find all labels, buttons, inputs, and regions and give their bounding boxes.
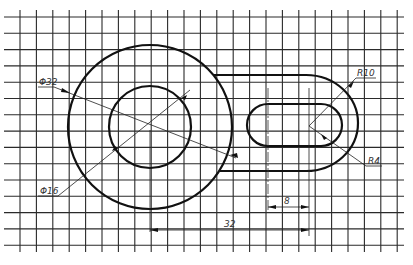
r10-label: R10 bbox=[357, 68, 375, 78]
phi32-label: Φ32 bbox=[39, 77, 58, 87]
dim-32-label: 32 bbox=[224, 219, 236, 229]
dim-8-arrow-left bbox=[268, 205, 276, 209]
technical-drawing: Φ32 Φ16 R10 R4 8 32 bbox=[0, 0, 413, 265]
phi16-label: Φ16 bbox=[40, 186, 59, 196]
grid-paper bbox=[4, 10, 404, 252]
dim-8-arrow-right bbox=[301, 205, 309, 209]
inner-slot-outline bbox=[247, 104, 342, 146]
r10-leader-line bbox=[309, 78, 356, 126]
r4-arrow bbox=[321, 134, 327, 140]
dim-8-label: 8 bbox=[284, 196, 290, 206]
r4-label: R4 bbox=[368, 156, 380, 166]
